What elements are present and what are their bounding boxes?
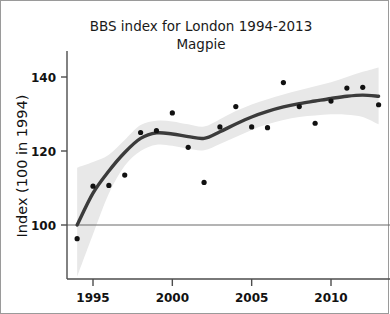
data-point — [265, 125, 270, 130]
y-axis-ticks: 100120140 — [31, 71, 67, 233]
data-point — [328, 98, 333, 103]
data-point — [186, 145, 191, 150]
chart-canvas: BBS index for London 1994-2013 Magpie In… — [1, 1, 390, 314]
data-point — [281, 80, 286, 85]
data-point — [344, 86, 349, 91]
data-point — [138, 130, 143, 135]
y-tick-label: 140 — [31, 71, 56, 85]
data-point — [249, 124, 254, 129]
data-point — [106, 183, 111, 188]
data-point — [376, 102, 381, 107]
chart-subtitle: Magpie — [176, 36, 225, 52]
data-point — [90, 184, 95, 189]
chart-title: BBS index for London 1994-2013 — [90, 18, 313, 34]
y-tick-label: 100 — [31, 219, 56, 233]
data-point — [217, 124, 222, 129]
x-tick-label: 2000 — [156, 291, 189, 305]
data-point — [154, 128, 159, 133]
data-point — [170, 110, 175, 115]
x-tick-label: 2005 — [235, 291, 268, 305]
data-point — [313, 121, 318, 126]
data-point — [201, 180, 206, 185]
data-point — [75, 236, 80, 241]
x-axis-ticks: 1995200020052010 — [76, 279, 347, 305]
data-point — [297, 104, 302, 109]
x-tick-label: 2010 — [314, 291, 347, 305]
data-point — [122, 172, 127, 177]
y-tick-label: 120 — [31, 145, 56, 159]
y-axis-title: Index (100 in 1994) — [14, 95, 30, 238]
data-point — [233, 104, 238, 109]
x-tick-label: 1995 — [76, 291, 109, 305]
data-point — [360, 85, 365, 90]
